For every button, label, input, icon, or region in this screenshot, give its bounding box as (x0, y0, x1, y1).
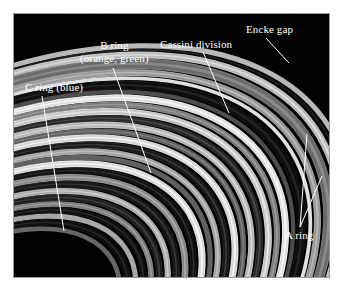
encke-gap-label-text: Encke gap (246, 23, 293, 35)
b-ring-label: B ring (orange, green) (80, 39, 149, 64)
a-ring-label-text: A ring (285, 229, 313, 241)
cassini-division-label: Cassini division (160, 38, 232, 51)
b-ring-label-subtext: (orange, green) (80, 52, 149, 65)
c-ring-label: C ring (blue) (25, 81, 83, 94)
ring-image-canvas (14, 14, 329, 277)
cassini-division-label-text: Cassini division (160, 38, 232, 50)
a-ring-label: A ring (285, 229, 313, 242)
encke-gap-label: Encke gap (246, 23, 293, 36)
figure-root: C ring (blue) B ring (orange, green) Cas… (0, 0, 343, 293)
film-grain (14, 14, 329, 277)
ring-grain-overlay (14, 14, 329, 277)
b-ring-label-text: B ring (100, 39, 128, 51)
saturn-rings-photo (13, 13, 330, 278)
c-ring-label-text: C ring (blue) (25, 81, 83, 93)
